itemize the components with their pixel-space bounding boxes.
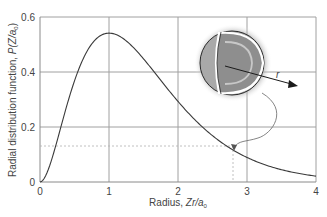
svg-text:1: 1 — [106, 186, 112, 197]
arrowhead-icon — [288, 80, 298, 88]
guide-lines — [40, 146, 233, 182]
svg-text:0.2: 0.2 — [21, 122, 35, 133]
atom-inset: r — [194, 24, 298, 151]
svg-text:3: 3 — [244, 186, 250, 197]
svg-text:4: 4 — [313, 186, 319, 197]
svg-text:2: 2 — [175, 186, 181, 197]
x-tick-labels: 0 1 2 3 4 — [37, 186, 319, 197]
y-axis-title: Radial distribution function, P(Z/a0) — [7, 23, 19, 177]
radial-distribution-chart: r 0.6 0.4 0.2 0 0 1 2 3 4 Radius, Zr/a0 … — [0, 0, 327, 217]
svg-text:0: 0 — [29, 177, 35, 188]
x-axis-title: Radius, Zr/a0 — [149, 197, 207, 209]
radius-label: r — [276, 69, 280, 80]
svg-text:0: 0 — [37, 186, 43, 197]
svg-text:0.6: 0.6 — [21, 12, 35, 23]
y-tick-labels: 0.6 0.4 0.2 0 — [21, 12, 35, 188]
grid — [40, 17, 316, 182]
svg-text:0.4: 0.4 — [21, 67, 35, 78]
